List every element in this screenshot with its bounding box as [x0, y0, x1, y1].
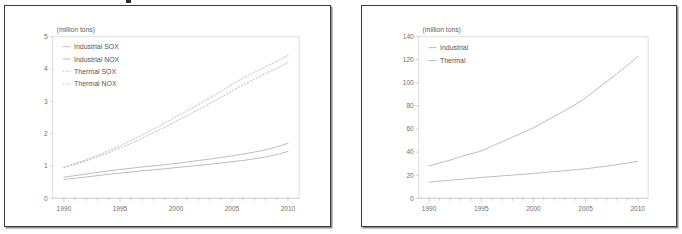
svg-text:80: 80: [406, 102, 414, 109]
svg-text:60: 60: [406, 125, 414, 132]
right-chart-area: (million tons)02040608010012014019901995…: [362, 6, 676, 226]
svg-text:1990: 1990: [422, 205, 437, 212]
left-chart-area: (million tons)01234519901995200020052010…: [5, 6, 330, 226]
legend-label-thermal-nox: Thermal NOX: [74, 80, 117, 87]
svg-text:140: 140: [403, 33, 414, 40]
svg-text:2: 2: [44, 130, 48, 137]
top-edge-marker: [126, 0, 131, 3]
figure-root: (million tons)01234519901995200020052010…: [0, 0, 682, 234]
legend-label-industrial-sox: Industrial SOX: [74, 43, 119, 50]
svg-text:2005: 2005: [578, 205, 593, 212]
series-industrial-sox: [64, 143, 288, 177]
legend-label-industrial-nox: Industrial NOX: [74, 56, 120, 63]
left-chart-svg: (million tons)01234519901995200020052010…: [5, 6, 330, 226]
legend-label-thermal: Thermal: [440, 57, 466, 64]
series-industrial: [429, 56, 638, 166]
svg-text:2005: 2005: [225, 205, 240, 212]
svg-text:4: 4: [44, 65, 48, 72]
svg-text:0: 0: [44, 195, 48, 202]
svg-text:2010: 2010: [630, 205, 645, 212]
left-panel: (million tons)01234519901995200020052010…: [4, 5, 331, 227]
svg-text:2010: 2010: [281, 205, 296, 212]
right-chart-svg: (million tons)02040608010012014019901995…: [362, 6, 676, 226]
svg-text:0: 0: [410, 195, 414, 202]
svg-text:1990: 1990: [57, 205, 72, 212]
svg-text:40: 40: [406, 148, 414, 155]
svg-text:(million tons): (million tons): [423, 26, 461, 34]
svg-text:120: 120: [403, 56, 414, 63]
svg-text:5: 5: [44, 33, 48, 40]
svg-text:2000: 2000: [169, 205, 184, 212]
svg-text:100: 100: [403, 79, 414, 86]
svg-text:(million tons): (million tons): [57, 26, 95, 34]
right-panel: (million tons)02040608010012014019901995…: [361, 5, 677, 227]
svg-text:1995: 1995: [474, 205, 489, 212]
svg-text:2000: 2000: [526, 205, 541, 212]
legend-label-thermal-sox: Thermal SOX: [74, 68, 116, 75]
svg-text:1: 1: [44, 162, 48, 169]
legend-label-industrial: Industrial: [440, 44, 469, 51]
svg-text:1995: 1995: [113, 205, 128, 212]
svg-text:20: 20: [406, 172, 414, 179]
series-thermal: [429, 161, 638, 182]
svg-text:3: 3: [44, 98, 48, 105]
